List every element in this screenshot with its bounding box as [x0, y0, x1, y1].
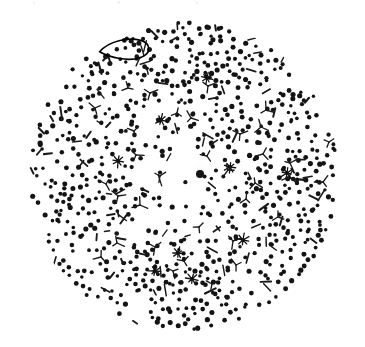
dot-glyph: [62, 192, 67, 197]
dot-glyph: [182, 237, 186, 241]
dot-glyph: [171, 283, 175, 287]
dot-glyph: [41, 167, 44, 170]
dot-glyph: [64, 165, 69, 170]
dot-glyph: [123, 164, 127, 168]
dot-glyph: [263, 162, 267, 166]
dot-glyph: [188, 48, 192, 52]
dot-glyph: [269, 100, 274, 105]
dot-glyph: [310, 140, 314, 144]
dot-glyph: [113, 255, 118, 260]
dot-glyph: [293, 111, 297, 115]
dot-glyph: [114, 141, 119, 146]
dot-glyph: [156, 72, 161, 77]
dash-glyph: [96, 234, 97, 240]
dot-glyph: [35, 174, 39, 178]
dot-glyph: [98, 262, 102, 266]
dot-glyph: [203, 112, 207, 116]
dot-glyph: [105, 71, 109, 75]
dot-glyph: [98, 171, 102, 175]
dot-glyph: [87, 248, 91, 252]
dot-glyph: [225, 112, 230, 117]
dot-glyph: [58, 213, 62, 217]
dot-glyph: [203, 71, 207, 75]
dot-glyph: [201, 205, 205, 209]
dot-glyph: [309, 184, 313, 188]
dot-glyph: [273, 58, 278, 63]
dot-glyph: [143, 97, 147, 101]
dot-glyph: [267, 134, 271, 138]
dot-glyph: [247, 153, 252, 158]
dot-glyph: [76, 212, 80, 216]
dot-glyph: [110, 289, 114, 293]
dot-glyph: [193, 312, 196, 315]
dot-glyph: [196, 145, 200, 149]
dot-glyph: [195, 326, 200, 331]
dot-glyph: [38, 141, 43, 146]
dot-glyph: [218, 38, 223, 43]
dot-glyph: [205, 317, 210, 322]
dot-glyph: [204, 266, 208, 270]
dot-glyph: [71, 173, 75, 177]
dot-glyph: [137, 288, 141, 292]
dot-glyph: [127, 182, 132, 187]
dot-glyph: [93, 115, 97, 119]
dot-glyph: [160, 297, 165, 302]
dot-glyph: [81, 206, 85, 210]
dot-glyph: [226, 144, 231, 149]
dot-glyph: [238, 245, 241, 248]
dot-glyph: [287, 158, 292, 163]
dot-glyph: [303, 213, 307, 217]
dot-glyph: [313, 133, 317, 137]
dot-glyph: [188, 90, 191, 93]
dot-glyph: [208, 118, 212, 122]
dot-glyph: [50, 123, 55, 128]
dot-glyph: [244, 172, 248, 176]
dot-glyph: [60, 150, 64, 154]
dot-glyph: [288, 248, 292, 252]
dot-glyph: [149, 288, 153, 292]
dot-glyph: [142, 73, 147, 78]
dot-glyph: [215, 133, 220, 138]
dot-glyph: [306, 220, 310, 224]
dot-glyph: [233, 57, 237, 61]
dot-glyph: [267, 233, 271, 237]
dot-glyph: [46, 102, 51, 107]
dot-glyph: [76, 269, 80, 273]
dash-glyph: [215, 25, 216, 30]
dot-glyph: [281, 225, 286, 230]
dot-glyph: [228, 69, 232, 73]
dot-glyph: [273, 67, 276, 70]
dot-glyph: [198, 32, 202, 36]
dot-glyph: [228, 310, 233, 315]
dot-glyph: [71, 146, 75, 150]
dot-glyph: [268, 223, 272, 227]
dot-glyph: [86, 95, 91, 100]
dash-glyph: [158, 83, 167, 84]
dot-glyph: [287, 73, 291, 77]
dot-glyph: [209, 323, 213, 327]
dot-glyph: [64, 85, 69, 90]
dot-glyph: [218, 34, 222, 38]
dot-glyph: [283, 190, 288, 195]
dot-glyph: [80, 275, 84, 279]
dot-glyph: [297, 213, 301, 217]
dot-glyph: [90, 70, 94, 74]
dot-glyph: [70, 67, 74, 71]
dot-glyph: [272, 137, 277, 142]
dot-glyph: [166, 221, 170, 225]
dot-glyph: [148, 258, 152, 262]
dot-glyph: [49, 194, 54, 199]
dot-glyph: [333, 148, 337, 152]
dot-glyph: [306, 238, 310, 242]
dot-glyph: [115, 301, 119, 305]
dot-glyph: [295, 117, 299, 121]
dot-glyph: [98, 190, 101, 193]
dot-glyph: [176, 323, 181, 328]
dot-glyph: [97, 86, 101, 90]
dot-glyph: [52, 248, 55, 251]
dot-glyph: [95, 248, 99, 252]
dot-glyph: [71, 249, 75, 253]
dot-glyph: [311, 207, 315, 211]
dot-glyph: [243, 41, 248, 46]
dot-glyph: [243, 210, 247, 214]
